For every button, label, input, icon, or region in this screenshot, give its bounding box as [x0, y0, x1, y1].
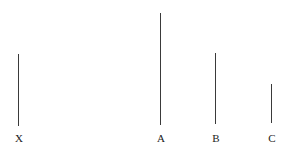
- line-a: [160, 13, 161, 125]
- line-b: [215, 53, 216, 124]
- label-x: X: [15, 133, 23, 144]
- line-x: [18, 54, 19, 126]
- label-a: A: [157, 133, 165, 144]
- label-c: C: [268, 133, 275, 144]
- label-b: B: [212, 133, 219, 144]
- line-c: [271, 84, 272, 123]
